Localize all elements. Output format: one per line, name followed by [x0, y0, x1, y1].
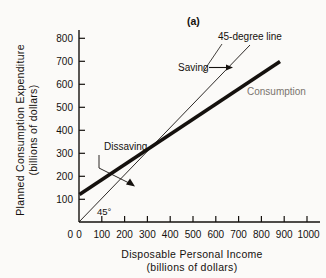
y-tick-label-800: 800	[56, 33, 73, 44]
y-tick-label-300: 300	[56, 148, 73, 159]
x-tick-label-400: 400	[162, 229, 179, 240]
y-tick-label-600: 600	[56, 79, 73, 90]
annotation-saving: Saving	[178, 62, 209, 73]
y-tick-label-400: 400	[56, 125, 73, 136]
arrowhead-dissaving	[126, 179, 135, 187]
x-tick-label-600: 600	[207, 229, 224, 240]
annotation-45-degree-line: 45-degree line	[218, 31, 282, 42]
annotation-forty-five-degrees: 45°	[97, 206, 112, 217]
y-tick-label-100: 100	[56, 194, 73, 205]
consumption-function-chart: 800 700 600 500 400 300 200 100 0 0 100 …	[0, 0, 326, 278]
panel-label: (a)	[187, 15, 200, 27]
x-tick-label-200: 200	[116, 229, 133, 240]
y-axis-subtitle: (billions of dollars)	[27, 85, 39, 176]
x-tick-label-0: 0	[76, 229, 82, 240]
y-tick-label-700: 700	[56, 56, 73, 67]
x-axis-subtitle: (billions of dollars)	[147, 261, 238, 273]
chart-figure: 800 700 600 500 400 300 200 100 0 0 100 …	[0, 0, 326, 278]
x-tick-label-800: 800	[253, 229, 270, 240]
x-tick-label-300: 300	[139, 229, 156, 240]
annotation-dissaving: Dissaving	[104, 141, 147, 152]
x-tick-label-100: 100	[93, 229, 110, 240]
x-tick-label-500: 500	[185, 229, 202, 240]
y-tick-label-200: 200	[56, 171, 73, 182]
y-tick-label-0: 0	[67, 229, 73, 240]
x-axis-ticks	[102, 216, 307, 222]
forty-five-degree-line-series	[79, 45, 250, 222]
y-axis-title: Planned Consumption Expenditure	[14, 44, 26, 216]
annotation-consumption: Consumption	[247, 86, 306, 97]
x-axis-title: Disposable Personal Income	[121, 248, 262, 260]
arrowhead-saving	[226, 65, 233, 71]
consumption-line-series	[80, 62, 281, 195]
x-tick-label-700: 700	[230, 229, 247, 240]
x-tick-label-900: 900	[276, 229, 293, 240]
y-axis-ticks	[79, 38, 85, 199]
y-tick-label-500: 500	[56, 102, 73, 113]
x-tick-label-1000: 1000	[297, 229, 320, 240]
